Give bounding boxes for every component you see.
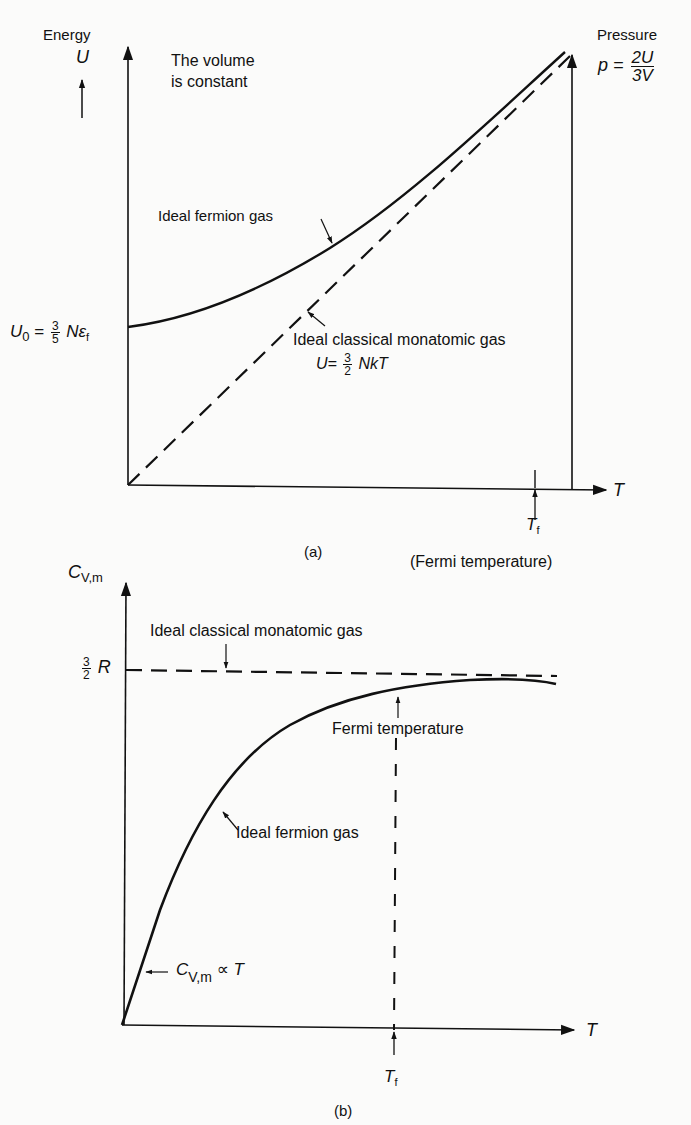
energy-axis-label: Energy xyxy=(43,26,91,43)
figure-canvas xyxy=(0,0,691,1125)
fermion-label-b: Ideal fermion gas xyxy=(236,824,359,842)
panel-a-caption: (a) xyxy=(304,543,322,560)
low-t-rhs: ∝ T xyxy=(217,960,244,979)
tf-label-b: Tf xyxy=(384,1067,397,1087)
heat-capacity-axis xyxy=(124,583,126,1025)
volume-note-line2: is constant xyxy=(171,73,247,91)
fermi-temperature-note: (Fermi temperature) xyxy=(410,553,552,571)
fermion-pointer-a-icon xyxy=(321,219,332,243)
pressure-fraction-numerator: 2U xyxy=(631,49,655,67)
fermion-label-a: Ideal fermion gas xyxy=(158,207,273,224)
fermion-energy-curve xyxy=(128,52,565,327)
classical-label-a: Ideal classical monatomic gas xyxy=(293,331,506,349)
classical-formula-a: U= 3 2 NkT xyxy=(316,352,388,377)
low-t-c: C xyxy=(176,960,188,979)
heat-capacity-c: C xyxy=(68,562,81,582)
energy-symbol: U xyxy=(76,47,89,68)
three-halves-fraction: 3 2 xyxy=(82,656,91,681)
three-halves-denominator: 2 xyxy=(83,669,90,681)
tf-symbol-b: T xyxy=(384,1067,394,1086)
u0-fraction: 3 5 xyxy=(51,320,60,345)
pressure-fraction: 2U 3V xyxy=(631,49,655,84)
classical-heat-capacity-line xyxy=(126,670,557,676)
tf-symbol-a: T xyxy=(526,515,536,534)
heat-capacity-subscript: V,m xyxy=(81,570,103,585)
tf-label-a: Tf xyxy=(526,515,539,535)
u0-label: U0 = 3 5 Nεf xyxy=(10,320,89,345)
u0-symbol: U xyxy=(10,322,22,341)
classical-formula-lhs: U= xyxy=(316,355,337,372)
tf-dashed-line-b xyxy=(394,738,396,1030)
heat-capacity-symbol: CV,m xyxy=(68,562,103,583)
tf-subscript-a: f xyxy=(536,524,539,536)
temperature-axis-b xyxy=(122,1025,574,1030)
panel-a-plot xyxy=(82,47,606,520)
classical-formula-fraction: 3 2 xyxy=(343,352,352,377)
classical-formula-rhs: NkT xyxy=(359,355,388,372)
tf-subscript-b: f xyxy=(394,1076,397,1088)
pressure-formula: p = 2U 3V xyxy=(598,49,656,84)
u0-equals: = xyxy=(34,322,44,341)
u0-subscript: 0 xyxy=(22,329,29,344)
fermi-temperature-label-b: Fermi temperature xyxy=(332,720,464,738)
classical-label-b: Ideal classical monatomic gas xyxy=(150,622,363,640)
volume-note-line1: The volume xyxy=(171,52,255,70)
pressure-axis-label: Pressure xyxy=(597,26,657,43)
low-t-law: CV,m ∝ T xyxy=(176,960,244,980)
pressure-fraction-denominator: 3V xyxy=(632,67,653,84)
temperature-symbol-b: T xyxy=(586,1020,597,1041)
classical-energy-line xyxy=(128,56,570,485)
three-halves-r-label: 3 2 R xyxy=(80,656,111,681)
gas-constant-symbol: R xyxy=(98,657,111,677)
pressure-formula-lhs: p = xyxy=(598,55,624,75)
temperature-symbol-a: T xyxy=(613,480,624,501)
u0-rhs: Nε xyxy=(66,322,86,341)
classical-pointer-a-icon xyxy=(308,312,325,326)
low-t-subscript: V,m xyxy=(188,969,212,985)
u0-fraction-denominator: 5 xyxy=(52,333,59,345)
classical-fraction-denominator: 2 xyxy=(344,365,351,377)
panel-b-caption: (b) xyxy=(334,1102,352,1119)
u0-rhs-subscript: f xyxy=(86,331,89,343)
